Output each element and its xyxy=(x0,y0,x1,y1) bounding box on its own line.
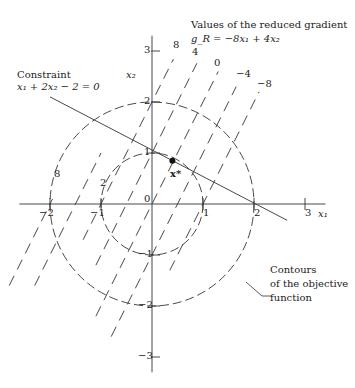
origin-label: 0 xyxy=(144,193,150,204)
gradient-value-label: 0 xyxy=(214,57,220,68)
contour-value-label: 2 xyxy=(100,177,106,188)
objective-leader-line xyxy=(246,282,272,296)
x-tick-label: −2 xyxy=(39,207,54,218)
gradient-value-label: 4 xyxy=(192,46,198,57)
y-tick-label: 1 xyxy=(144,146,150,157)
x-tick-label: −1 xyxy=(90,207,105,218)
constraint-equation: x₁ + 2x₂ − 2 = 0 xyxy=(17,81,100,92)
x1-axis-label: x₁ xyxy=(318,208,328,219)
optimum-point xyxy=(169,158,175,164)
constraint-line-segment xyxy=(50,97,287,220)
y-tick-label: 2 xyxy=(144,95,150,106)
gradient-value-label: 8 xyxy=(173,39,179,50)
gradient-value-label: −4 xyxy=(236,68,251,79)
gradient-line xyxy=(35,153,101,286)
reduced-gradient-diagram xyxy=(0,0,355,388)
objective-label-1: Contours xyxy=(270,264,317,275)
optimum-label: x* xyxy=(170,168,181,179)
constraint-label: Constraint xyxy=(17,69,71,80)
reduced-gradient-lines xyxy=(9,59,259,336)
gradient-line xyxy=(96,63,197,265)
gradient-value-label: −8 xyxy=(257,78,272,89)
x-tick-label: 2 xyxy=(254,207,260,218)
contour-value-label: 8 xyxy=(54,168,60,179)
gradient-line xyxy=(96,71,218,316)
y-tick-label: −2 xyxy=(138,299,153,310)
objective-label-3: function xyxy=(270,292,312,303)
optimum-dot xyxy=(169,158,175,164)
y-tick-label: −3 xyxy=(138,350,153,361)
y-tick-label: −1 xyxy=(138,248,153,259)
x2-axis-label: x₂ xyxy=(126,69,136,80)
gradient-line xyxy=(111,87,236,337)
title-line-1: Values of the reduced gradient xyxy=(191,19,347,30)
title-line-2: g_R = −8x₁ + 4x₂ xyxy=(191,33,280,44)
objective-label-2: of the objective xyxy=(270,278,348,289)
y-tick-label: 3 xyxy=(144,44,150,55)
constraint-line xyxy=(50,97,287,220)
x-tick-label: 1 xyxy=(203,207,209,218)
x-tick-label: 3 xyxy=(305,207,311,218)
